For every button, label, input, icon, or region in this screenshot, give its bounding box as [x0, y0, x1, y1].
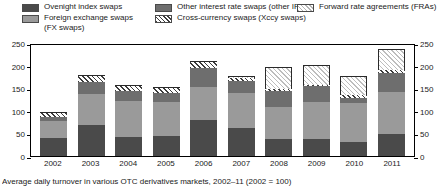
y-axis-label-100-l: 100 — [12, 109, 25, 117]
y-axis-label-200-r: 200 — [420, 64, 433, 72]
y-axis-tick-100-l — [27, 112, 31, 113]
bar-2006[interactable] — [190, 45, 217, 156]
bar-segment-2009-irs — [303, 86, 330, 101]
y-axis-tick-100-r — [414, 112, 418, 113]
chart-caption: Average daily turnover in various OTC de… — [2, 177, 443, 186]
x-axis-label-2011: 2011 — [379, 159, 406, 171]
bar-segment-2002-fx — [40, 121, 67, 138]
bar-segment-2010-ois — [340, 142, 367, 156]
bar-segment-2007-fx — [228, 93, 255, 128]
bar-segment-2010-fx — [340, 103, 367, 142]
bar-segment-2004-irs — [115, 91, 142, 101]
bar-segment-2004-fx — [115, 101, 142, 137]
y-axis-label-250-r: 250 — [420, 41, 433, 49]
solid-medium-gray-swatch-icon — [155, 4, 172, 12]
y-axis-label-0-l: 0 — [21, 154, 25, 162]
bar-segment-2005-irs — [153, 93, 180, 102]
bar-segment-2005-ois — [153, 136, 180, 156]
solid-light-gray-swatch-icon — [22, 15, 39, 23]
bar-2002[interactable] — [40, 45, 67, 156]
solid-dark-gray-swatch-icon — [22, 4, 39, 12]
bar-segment-2003-ois — [78, 125, 105, 156]
bar-segment-2009-fx — [303, 102, 330, 140]
bar-segment-2011-irs — [378, 73, 405, 92]
y-axis-tick-50-l — [27, 135, 31, 136]
bar-segment-2007-ois — [228, 128, 255, 156]
bar-segment-2008-fra — [265, 67, 292, 89]
legend-label-xccy: Cross-currency swaps (Xccy swaps) — [177, 13, 306, 23]
bar-segment-2009-ois — [303, 139, 330, 156]
bar-segment-2008-irs — [265, 91, 292, 107]
bar-segment-2006-ois — [190, 120, 217, 156]
y-axis-label-50-r: 50 — [420, 131, 429, 139]
bar-segment-2011-ois — [378, 134, 405, 156]
legend-item-fx: Foreign exchange swaps (FX swaps) — [22, 13, 133, 32]
x-axis-label-2003: 2003 — [77, 159, 104, 171]
chart-legend: Ovenight index swaps Foreign exchange sw… — [0, 0, 445, 38]
y-axis-label-0-r: 0 — [420, 154, 424, 162]
y-axis-tick-150-r — [414, 90, 418, 91]
x-axis-label-2005: 2005 — [152, 159, 179, 171]
x-axis-label-2008: 2008 — [265, 159, 292, 171]
bar-segment-2011-fx — [378, 92, 405, 134]
plot-frame: 005050100100150150200200250250 — [30, 44, 415, 157]
bar-segment-2011-fra — [378, 49, 405, 70]
legend-label-fx-line2: (FX swaps) — [44, 23, 133, 33]
bar-segment-2008-ois — [265, 139, 292, 156]
y-axis-label-250-l: 250 — [12, 41, 25, 49]
bar-2005[interactable] — [153, 45, 180, 156]
legend-label-ois: Ovenight index swaps — [44, 2, 122, 12]
x-axis-label-2010: 2010 — [341, 159, 368, 171]
bar-segment-2009-fra — [303, 65, 330, 85]
bar-2003[interactable] — [78, 45, 105, 156]
legend-label-irs: Other interest rate swaps (other IRSs) — [177, 2, 312, 12]
x-axis-label-2004: 2004 — [115, 159, 142, 171]
x-axis-label-2002: 2002 — [39, 159, 66, 171]
bar-2009[interactable] — [303, 45, 330, 156]
y-axis-tick-250-r — [414, 45, 418, 46]
y-axis-label-200-l: 200 — [12, 64, 25, 72]
bar-segment-2006-fx — [190, 87, 217, 120]
bar-2008[interactable] — [265, 45, 292, 156]
chart-plot-area: 005050100100150150200200250250 200220032… — [0, 40, 445, 170]
bar-segment-2002-ois — [40, 138, 67, 156]
legend-item-irs: Other interest rate swaps (other IRSs) — [155, 2, 312, 12]
bar-2004[interactable] — [115, 45, 142, 156]
y-axis-label-50-l: 50 — [16, 131, 25, 139]
legend-label-fx-wrap: Foreign exchange swaps (FX swaps) — [44, 13, 133, 32]
y-axis-tick-200-r — [414, 67, 418, 68]
y-axis-label-150-r: 150 — [420, 86, 433, 94]
bar-segment-2003-irs — [78, 82, 105, 94]
x-axis-label-2007: 2007 — [228, 159, 255, 171]
bar-segment-2004-ois — [115, 137, 142, 156]
bar-2011[interactable] — [378, 45, 405, 156]
bar-2010[interactable] — [340, 45, 367, 156]
legend-label-fra: Forward rate agreements (FRAs) — [319, 2, 436, 12]
y-axis-label-150-l: 150 — [12, 86, 25, 94]
x-axis-labels: 2002200320042005200620072008200920102011 — [30, 159, 415, 171]
dense-diagonal-hatch-swatch-icon — [155, 15, 172, 23]
legend-item-ois: Ovenight index swaps — [22, 2, 122, 12]
legend-label-fx: Foreign exchange swaps — [44, 13, 133, 22]
legend-item-fra: Forward rate agreements (FRAs) — [297, 2, 436, 12]
y-axis-tick-50-r — [414, 135, 418, 136]
y-axis-tick-250-l — [27, 45, 31, 46]
y-axis-tick-200-l — [27, 67, 31, 68]
y-axis-label-100-r: 100 — [420, 109, 433, 117]
bar-2007[interactable] — [228, 45, 255, 156]
legend-item-xccy: Cross-currency swaps (Xccy swaps) — [155, 13, 306, 23]
y-axis-tick-150-l — [27, 90, 31, 91]
bar-segment-2008-fx — [265, 107, 292, 139]
bar-group — [31, 45, 414, 156]
bar-segment-2003-fx — [78, 94, 105, 126]
bar-segment-2006-irs — [190, 68, 217, 87]
bar-segment-2007-irs — [228, 81, 255, 92]
bar-segment-2005-fx — [153, 102, 180, 136]
bar-segment-2010-fra — [340, 76, 367, 96]
x-axis-label-2006: 2006 — [190, 159, 217, 171]
light-diagonal-hatch-swatch-icon — [297, 4, 314, 12]
x-axis-label-2009: 2009 — [303, 159, 330, 171]
